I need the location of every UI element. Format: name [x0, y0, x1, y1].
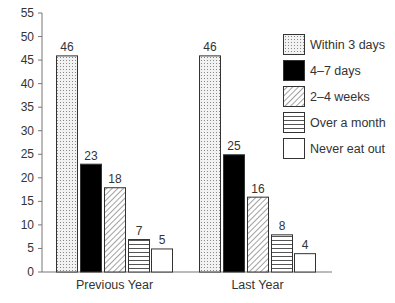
- legend-swatch-diagonal-hatch: [284, 87, 305, 107]
- bar-value-label: 4: [302, 238, 309, 252]
- legend-label: 4–7 days: [310, 64, 361, 78]
- bar-chart: 0510152025303540455055 4623187546251684 …: [0, 0, 395, 303]
- bar-value-label: 23: [84, 149, 98, 163]
- y-tick-label: 45: [21, 53, 35, 67]
- y-tick-label: 40: [21, 77, 35, 91]
- legend-swatch-horizontal-lines: [284, 113, 305, 133]
- legend-label: Within 3 days: [310, 38, 385, 52]
- y-tick-label: 15: [21, 194, 35, 208]
- y-tick-label: 30: [21, 124, 35, 138]
- x-axis-labels: Previous YearLast Year: [76, 278, 284, 292]
- bar-white: [152, 249, 173, 272]
- y-tick-label: 50: [21, 30, 35, 44]
- legend-label: Never eat out: [310, 142, 386, 156]
- bar-value-label: 7: [136, 224, 143, 238]
- y-tick-label: 0: [27, 265, 34, 279]
- y-tick-label: 55: [21, 6, 35, 20]
- bars: 4623187546251684: [57, 40, 316, 272]
- category-label: Previous Year: [76, 278, 153, 292]
- bar-diagonal-hatch: [248, 197, 269, 272]
- legend: Within 3 days4–7 days2–4 weeksOver a mon…: [284, 35, 386, 159]
- y-tick-label: 20: [21, 171, 35, 185]
- bar-value-label: 46: [60, 40, 74, 54]
- bar-diagonal-hatch: [105, 188, 126, 272]
- y-tick-label: 35: [21, 100, 35, 114]
- y-tick-label: 10: [21, 218, 35, 232]
- bar-value-label: 5: [159, 233, 166, 247]
- bar-white: [295, 254, 316, 272]
- legend-label: 2–4 weeks: [310, 90, 370, 104]
- legend-label: Over a month: [310, 116, 386, 130]
- bar-value-label: 46: [203, 40, 217, 54]
- bar-solid-black: [81, 164, 102, 272]
- bar-value-label: 25: [227, 139, 241, 153]
- bar-solid-black: [224, 155, 245, 272]
- bar-horizontal-lines: [129, 240, 150, 272]
- bar-horizontal-lines: [272, 235, 293, 272]
- legend-swatch-white: [284, 139, 305, 159]
- bar-value-label: 8: [279, 219, 286, 233]
- y-tick-label: 5: [27, 241, 34, 255]
- bar-value-label: 18: [108, 172, 122, 186]
- legend-swatch-dots: [284, 35, 305, 55]
- bar-dots: [200, 56, 221, 272]
- y-tick-label: 25: [21, 147, 35, 161]
- bar-value-label: 16: [251, 182, 265, 196]
- bar-dots: [57, 56, 78, 272]
- legend-swatch-solid-black: [284, 61, 305, 81]
- category-label: Last Year: [231, 278, 283, 292]
